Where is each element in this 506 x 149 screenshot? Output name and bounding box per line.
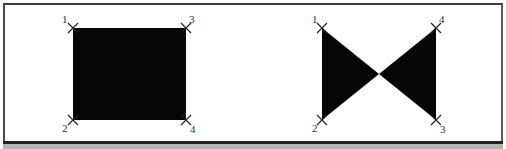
bowtie-left-triangle (322, 28, 379, 120)
bowtie-vertex-label-3: 3 (440, 123, 446, 135)
diagram-canvas: 1 2 3 4 1 2 3 4 (0, 0, 506, 149)
rect-vertex-label-4: 4 (190, 123, 196, 135)
bowtie-vertex-label-4: 4 (439, 13, 445, 25)
filled-rectangle (73, 28, 186, 120)
rect-vertex-label-1: 1 (62, 13, 68, 25)
rect-vertex-label-3: 3 (189, 13, 195, 25)
bowtie-right-triangle (379, 28, 436, 120)
rect-vertex-label-2: 2 (62, 122, 68, 134)
bowtie-vertex-label-1: 1 (312, 13, 318, 25)
rectangle-figure (73, 28, 186, 120)
bowtie-figure (322, 28, 436, 120)
bowtie-vertex-label-2: 2 (312, 122, 318, 134)
